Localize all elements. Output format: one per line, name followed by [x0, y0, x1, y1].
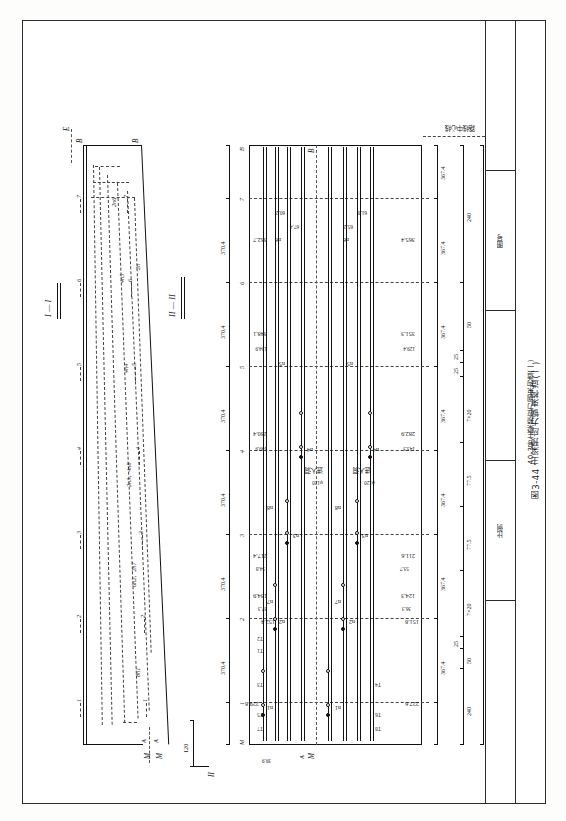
dim-lower-3: 367.4 [440, 493, 446, 509]
dim-120-line [193, 721, 194, 767]
end-mark-B-top: B [77, 139, 84, 143]
note-access-hole-upper: 进人洞 [305, 467, 323, 473]
bchain-50-l: 50 [466, 657, 472, 665]
cut-mark-6-top: 6 [76, 279, 82, 282]
girder-top-edge-2 [86, 145, 87, 745]
end-mark-M-lower: M [157, 753, 164, 759]
station-label-B: B [239, 147, 245, 151]
girder-bottom-edge [141, 145, 169, 744]
anchor-label-T5: T5 [257, 712, 263, 717]
end-mark-A-lower: A [153, 739, 159, 743]
tendon-envelope-close-3 [95, 166, 120, 167]
bchain-50-r: 50 [466, 321, 472, 329]
cut-mark-2-top: 2 [76, 615, 82, 618]
title-block-label-drawing-no: 图号 [496, 234, 506, 248]
tendon-group-label-2n6: 2n6 [111, 198, 117, 207]
girder-left-end [83, 744, 143, 745]
dim-lower-5: 367.4 [440, 325, 446, 341]
cut-mark-3-top: 3 [76, 531, 82, 534]
tendon-line-g2 [360, 147, 361, 741]
cut-mark-6-bottom: 6 [127, 279, 133, 282]
dim-upper-3: 370.4 [220, 493, 226, 509]
tendon-line-d1 [301, 147, 302, 741]
tendon-group-label-6n2-2n7: 6n2、2n7 [131, 562, 137, 587]
drawing-page: 2n6 4n5 2n 4n4 2n3、4n8 6n2、2n7 8n1 1 1 2 [0, 0, 566, 821]
dim-u-134-9: 134.9 [253, 593, 267, 599]
dim-upper-6: 370.4 [220, 241, 226, 257]
end-mark-b-line [71, 129, 72, 163]
tendon-line-c1 [287, 147, 288, 741]
tendon-envelope-close-4 [123, 722, 137, 723]
station-label-M: M [239, 740, 245, 745]
layout-bottom-border [421, 145, 422, 745]
tendon-envelope-close-2 [93, 182, 129, 183]
dim-upper-4: 370.4 [220, 409, 226, 425]
cut-mark-7-bottom: 7 [123, 195, 129, 198]
anchor-label-T1: T1 [257, 648, 263, 653]
tendon-group-label-8n1: 8n1 [135, 668, 141, 677]
station-label-4: 4 [239, 450, 245, 453]
dim-lower-6: 367.4 [440, 241, 446, 257]
tendon-label-l-n6: n6 [343, 237, 349, 243]
dim-lower-2: 367.4 [440, 577, 446, 593]
tendon-line-d2 [304, 147, 305, 741]
cut-mark-4-top: 4 [76, 447, 82, 450]
dim-end-60-2: 60.2 [276, 210, 285, 215]
figure-caption: 图3-44 主梁预应力钢束构造(一) [530, 361, 542, 499]
cut-mark-3-bottom: 3 [138, 531, 144, 534]
tendon-label-u-n8: n8 [267, 505, 273, 511]
dim-upper-5: 370.4 [220, 325, 226, 341]
layout-end-mark-B-right: B [309, 149, 316, 153]
anchor-label-T4: T4 [375, 682, 381, 687]
dim-l-53-7: 53.7 [400, 566, 409, 571]
bchain-7x20-r: 7×20 [466, 409, 472, 423]
tendon-label-l-n5: n5 [347, 361, 353, 367]
note-access-hole-lower: 进人洞 [353, 467, 371, 473]
cut-mark-1-top: 1 [76, 699, 82, 702]
bchain-25-r1: 25 [453, 367, 459, 375]
tendon-label-l-n7: n7 [335, 599, 341, 605]
drawing-canvas: 2n6 4n5 2n 4n4 2n3、4n8 6n2、2n7 8n1 1 1 2 [23, 21, 485, 803]
tendon-group-label-2n3-4n8: 2n3、4n8 [126, 462, 132, 487]
anchor-label-T3: T3 [257, 682, 263, 687]
cut-mark-1-bottom: 1 [142, 699, 148, 702]
tendon-label-l-n1: n1 [335, 705, 341, 711]
girder-right-end [83, 145, 141, 146]
station-label-2: 2 [239, 618, 245, 621]
tendon-label-u-n5: n5 [279, 361, 285, 367]
dim-l-36-3: 36.3 [402, 606, 411, 611]
cut-mark-5-bottom: 5 [131, 363, 137, 366]
cut-mark-4-bottom: 4 [135, 447, 141, 450]
gridline-station-3 [249, 534, 429, 535]
cut-mark-7-top: 7 [76, 195, 82, 198]
anchor-label-T2: T2 [257, 636, 263, 641]
dim-l-365-4: 365.4 [401, 237, 415, 243]
drawing-canvas-area: 2n6 4n5 2n 4n4 2n3、4n8 6n2、2n7 8n1 1 1 2 [23, 21, 485, 803]
anchor-label-T8: T8 [375, 726, 381, 731]
section-title-II-II: II — II [169, 294, 177, 317]
tendon-group-label-2n: 2n [135, 264, 141, 270]
end-mark-B-bottom: B [133, 139, 140, 143]
layout-top-border [249, 145, 250, 745]
bchain-240-r: 240 [466, 212, 472, 223]
cut-mark-5-top: 5 [76, 363, 82, 366]
tendon-label-u-n4: n4 [307, 447, 313, 453]
layout-end-mark-M: M [309, 753, 316, 759]
layout-end-mark-A: A [299, 755, 305, 759]
dim-lower-7: 367.4 [440, 166, 446, 182]
anchor-label-T7: T7 [257, 726, 263, 731]
bchain-240-l: 240 [466, 706, 472, 717]
gridline-station-1 [249, 702, 429, 703]
bchain-775-l: 77.5 [466, 539, 472, 552]
gridline-station-6 [249, 282, 429, 283]
dim-u-54-8: 54.8 [256, 566, 265, 571]
dim-lower-1: 367.4 [440, 661, 446, 677]
end-mark-A-upper: A [141, 739, 147, 743]
tendon-label-u-n7: n7 [267, 599, 273, 605]
title-block-label-scale: 比例 [496, 524, 506, 538]
gridline-station-4 [249, 450, 429, 451]
tendon-label-l-n3: n3 [362, 533, 368, 539]
station-label-3: 3 [239, 534, 245, 537]
tendon-label-u-n6: n6 [275, 237, 281, 243]
dim-upper-1: 370.4 [220, 661, 226, 677]
